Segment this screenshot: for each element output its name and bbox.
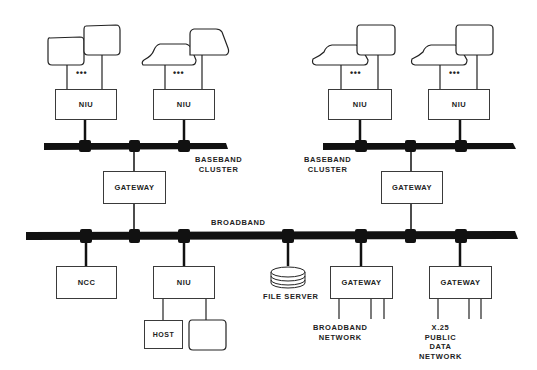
terminal-icon xyxy=(142,44,196,65)
niu-box: NIU xyxy=(428,89,490,120)
label-line: NETWORK xyxy=(419,352,462,362)
host-box: HOST xyxy=(144,320,183,349)
niu-box: NIU xyxy=(55,89,117,120)
file-server-icon xyxy=(271,267,305,288)
gateway-box: GATEWAY xyxy=(381,171,443,204)
label-line: PUBLIC xyxy=(419,333,462,343)
ellipsis-more-devices: ••• xyxy=(449,69,460,79)
broadband-bus xyxy=(26,231,518,240)
ellipsis-more-devices: ••• xyxy=(76,69,87,79)
gateway-box: GATEWAY xyxy=(103,171,166,204)
label-line: CLUSTER xyxy=(195,165,242,175)
monitor-icon xyxy=(456,25,493,55)
ellipsis-more-devices: ••• xyxy=(173,69,184,79)
label-line: DATA xyxy=(419,342,462,352)
niu-box: NIU xyxy=(328,89,392,120)
baseband-cluster-label: BASEBAND CLUSTER xyxy=(195,155,242,174)
network-diagram: ••• ••• ••• ••• NIU NIU NIU NIU BASEBAND… xyxy=(0,0,537,370)
ncc-box: NCC xyxy=(56,266,117,299)
label-line: CLUSTER xyxy=(304,165,351,175)
ellipsis-more-devices: ••• xyxy=(350,69,361,79)
label-line: X.25 xyxy=(419,323,462,333)
diagram-lines xyxy=(0,0,537,370)
file-server-label: FILE SERVER xyxy=(263,292,319,302)
baseband-cluster-label: BASEBAND CLUSTER xyxy=(304,155,351,174)
monitor-icon xyxy=(357,25,395,55)
broadband-network-label: BROADBAND NETWORK xyxy=(313,323,368,342)
label-line: BASEBAND xyxy=(304,155,351,165)
broadband-label: BROADBAND xyxy=(211,218,266,228)
label-line: BROADBAND xyxy=(313,323,368,333)
niu-box: NIU xyxy=(153,266,215,299)
label-line: BASEBAND xyxy=(195,155,242,165)
monitor-icon xyxy=(84,25,120,55)
niu-box: NIU xyxy=(153,89,215,120)
x25-public-data-network-label: X.25 PUBLIC DATA NETWORK xyxy=(419,323,462,361)
terminal-icon xyxy=(190,29,229,55)
gateway-box: GATEWAY xyxy=(429,266,492,299)
gateway-box: GATEWAY xyxy=(330,266,393,299)
monitor-icon xyxy=(189,320,226,350)
baseband-bus-right xyxy=(323,143,516,150)
monitor-icon xyxy=(48,37,84,65)
label-line: NETWORK xyxy=(313,333,368,343)
